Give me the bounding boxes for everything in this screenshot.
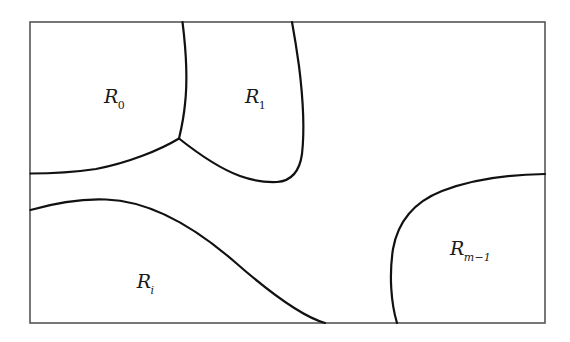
region-label-Ri: Ri [137, 272, 156, 294]
region-label-Ri-symbol: R [137, 270, 152, 292]
region-label-Rm-minus-1-subscript: m−1 [464, 251, 491, 264]
region-partition-svg [0, 0, 570, 342]
figure-container: R0 R1 Ri Rm−1 [0, 0, 570, 342]
region-label-Ri-subscript: i [151, 284, 155, 297]
region-label-R1-subscript: 1 [259, 99, 266, 112]
region-label-Rm-minus-1-symbol: R [450, 237, 465, 259]
region-label-R0-subscript: 0 [118, 99, 125, 112]
region-label-R1: R1 [245, 87, 267, 109]
region-label-R0-symbol: R [104, 85, 119, 107]
region-label-R1-symbol: R [245, 85, 260, 107]
region-label-Rm-minus-1: Rm−1 [450, 239, 492, 261]
region-label-R0: R0 [104, 87, 126, 109]
